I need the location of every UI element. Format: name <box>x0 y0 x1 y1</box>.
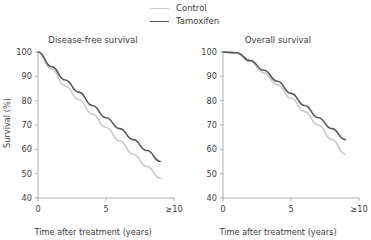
legend-swatch-tamoxifen <box>150 21 169 22</box>
plot-area-disease-free-survival: 40506070809010005≥10 <box>0 30 186 240</box>
y-tick-label: 60 <box>207 144 217 154</box>
chart-legend: Control Tamoxifen <box>150 2 290 28</box>
x-tick-label: 5 <box>288 204 293 214</box>
legend-label-tamoxifen: Tamoxifen <box>176 16 219 26</box>
plot-area-overall-survival: 40506070809010005≥10 <box>185 30 371 240</box>
y-tick-label: 40 <box>22 193 32 203</box>
y-tick-label: 80 <box>207 96 217 106</box>
x-tick-label: ≥10 <box>165 204 182 214</box>
y-axis-title-left: Survival (%) <box>2 78 12 168</box>
figure-root: Control Tamoxifen Disease-free survival … <box>0 0 371 240</box>
y-tick-label: 50 <box>22 169 32 179</box>
legend-item-control: Control <box>150 2 290 14</box>
y-tick-label: 70 <box>22 120 32 130</box>
series-line-tamoxifen <box>223 52 345 140</box>
x-tick-label: 5 <box>103 204 108 214</box>
panel-disease-free-survival: Disease-free survival 40506070809010005≥… <box>0 30 186 240</box>
y-tick-label: 70 <box>207 120 217 130</box>
x-tick-label: ≥10 <box>350 204 367 214</box>
x-tick-label: 0 <box>220 204 225 214</box>
series-line-control <box>223 52 345 154</box>
legend-label-control: Control <box>176 3 207 13</box>
legend-swatch-control <box>150 8 169 9</box>
y-tick-label: 80 <box>22 96 32 106</box>
y-tick-label: 50 <box>207 169 217 179</box>
series-line-tamoxifen <box>38 52 160 162</box>
x-axis-title-right: Time after treatment (years) <box>185 227 371 237</box>
y-tick-label: 60 <box>22 144 32 154</box>
panel-overall-survival: Overall survival 40506070809010005≥10 Ti… <box>185 30 371 240</box>
x-tick-label: 0 <box>35 204 40 214</box>
x-axis-title-left: Time after treatment (years) <box>0 227 186 237</box>
legend-item-tamoxifen: Tamoxifen <box>150 15 290 27</box>
y-tick-label: 90 <box>207 71 217 81</box>
y-tick-label: 40 <box>207 193 217 203</box>
y-tick-label: 100 <box>16 47 32 57</box>
y-tick-label: 100 <box>201 47 217 57</box>
y-tick-label: 90 <box>22 71 32 81</box>
